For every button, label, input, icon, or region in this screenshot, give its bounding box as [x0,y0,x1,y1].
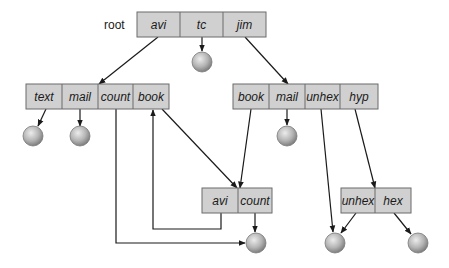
entry-count[interactable]: count [101,90,131,104]
entry-mail[interactable]: mail [276,90,298,104]
file-node-text-file[interactable] [23,126,43,146]
file-node-hex-file[interactable] [408,233,428,253]
edge-jim_dir-unhex [321,109,333,232]
directory-hyp-dir: unhexhex [341,188,411,213]
entry-unhex[interactable]: unhex [342,194,376,208]
directory-graph: root avitcjimtextmailcountbookbookmailun… [0,0,449,268]
entry-tc[interactable]: tc [197,18,206,32]
edge-jim_dir-hyp [355,109,375,188]
entry-book[interactable]: book [238,90,265,104]
directory-nodes: avitcjimtextmailcountbookbookmailunhexhy… [26,12,411,213]
file-node-mail-file-jim[interactable] [277,126,297,146]
file-node-mail-file-avi[interactable] [70,126,90,146]
file-node-tc-file[interactable] [192,52,212,72]
entry-avi[interactable]: avi [212,194,228,208]
directory-root: avitcjim [137,12,266,37]
entry-book[interactable]: book [138,90,165,104]
entry-mail[interactable]: mail [69,90,91,104]
edge-hyp_dir-unhex [341,213,356,233]
edge-jim_dir-book [240,109,251,188]
files [23,52,428,253]
directory-avi-dir: textmailcountbook [26,84,169,109]
file-node-unhex-file[interactable] [325,233,345,253]
edge-avi_dir-text [38,109,46,126]
directory-jim-dir: bookmailunhexhyp [233,84,378,109]
directory-book-dir: avicount [202,188,272,213]
edge-avi_dir-book [162,109,237,188]
file-node-count-file[interactable] [246,233,266,253]
entry-unhex[interactable]: unhex [306,90,340,104]
edge-root-avi [99,37,158,84]
entry-hyp[interactable]: hyp [349,90,369,104]
entry-count[interactable]: count [240,194,270,208]
entry-jim[interactable]: jim [235,18,252,32]
entry-avi[interactable]: avi [151,18,167,32]
root-label: root [104,18,125,32]
entry-text[interactable]: text [34,90,54,104]
entry-hex[interactable]: hex [383,194,403,208]
edge-root-jim [245,37,288,84]
edge-hyp_dir-hex [394,213,411,234]
